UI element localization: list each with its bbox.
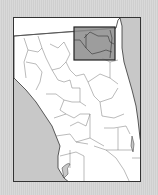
map-frame	[13, 17, 141, 182]
florida-county-map	[14, 18, 141, 182]
highlight-box[interactable]	[74, 27, 115, 60]
